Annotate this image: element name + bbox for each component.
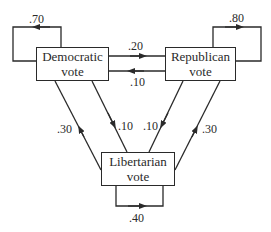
- republican-label-line2: vote: [189, 64, 211, 79]
- edge-label-rep-dem: .10: [130, 76, 145, 88]
- edge-label-rep-rep: .80: [229, 12, 244, 24]
- edge-label-dem-lib: .10: [118, 120, 133, 132]
- edge-label-dem-dem: .70: [29, 13, 44, 25]
- transition-diagram-edges: [0, 0, 271, 232]
- libertarian-vote-node: Libertarian vote: [101, 152, 175, 186]
- democratic-vote-node: Democratic vote: [36, 47, 109, 81]
- democratic-label-line2: vote: [61, 64, 83, 79]
- libertarian-label-line2: vote: [127, 169, 149, 184]
- edge-label-dem-rep: .20: [128, 40, 143, 52]
- libertarian-label-line1: Libertarian: [109, 154, 167, 169]
- rep-to-lib-arrow: [149, 81, 183, 152]
- dem-to-lib-arrow: [92, 81, 127, 152]
- edge-label-lib-lib: .40: [129, 212, 144, 224]
- edge-label-lib-dem: .30: [57, 123, 72, 135]
- republican-label-line1: Republican: [171, 49, 230, 64]
- lib-self-loop: [116, 186, 163, 206]
- republican-vote-node: Republican vote: [165, 47, 236, 81]
- edge-label-lib-rep: .30: [202, 123, 217, 135]
- democratic-label-line1: Democratic: [42, 49, 103, 64]
- edge-label-rep-lib: .10: [143, 120, 158, 132]
